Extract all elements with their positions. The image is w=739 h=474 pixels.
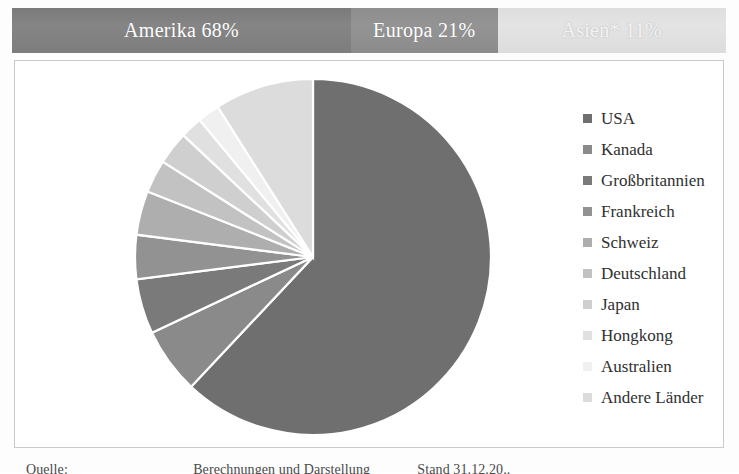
legend-item-label: Australien xyxy=(601,358,672,375)
source-fragment-2: Berechnungen und Darstellung xyxy=(193,462,370,474)
pie-chart xyxy=(133,77,493,437)
region-segment-europa-label: Europa 21% xyxy=(373,19,475,42)
legend-item[interactable]: USA xyxy=(583,103,739,134)
source-fragment-3: Stand 31.12.20.. xyxy=(417,462,510,474)
chart-legend: USAKanadaGroßbritannienFrankreichSchweiz… xyxy=(583,103,739,413)
legend-item-label: Kanada xyxy=(601,141,653,158)
legend-item[interactable]: Hongkong xyxy=(583,320,739,351)
legend-swatch-icon xyxy=(583,393,592,402)
pie-chart-svg xyxy=(133,77,493,437)
legend-swatch-icon xyxy=(583,238,592,247)
legend-item-label: Frankreich xyxy=(601,203,675,220)
region-segment-amerika: Amerika 68% xyxy=(12,8,351,53)
source-caption: Quelle: Berechnungen und Darstellung Sta… xyxy=(26,462,726,474)
legend-item[interactable]: Australien xyxy=(583,351,739,382)
legend-item-label: USA xyxy=(601,110,635,127)
region-summary-bar: Amerika 68% Europa 21% Asien* 11% xyxy=(12,8,726,53)
legend-item-label: Andere Länder xyxy=(601,389,703,406)
legend-item[interactable]: Frankreich xyxy=(583,196,739,227)
legend-item-label: Japan xyxy=(601,296,640,313)
region-segment-europa: Europa 21% xyxy=(351,8,497,53)
legend-swatch-icon xyxy=(583,176,592,185)
legend-item[interactable]: Kanada xyxy=(583,134,739,165)
legend-swatch-icon xyxy=(583,114,592,123)
pie-slice-group xyxy=(135,79,491,435)
legend-swatch-icon xyxy=(583,362,592,371)
legend-swatch-icon xyxy=(583,331,592,340)
legend-item-label: Hongkong xyxy=(601,327,673,344)
legend-swatch-icon xyxy=(583,269,592,278)
legend-item[interactable]: Deutschland xyxy=(583,258,739,289)
legend-swatch-icon xyxy=(583,300,592,309)
legend-item-label: Großbritannien xyxy=(601,172,705,189)
chart-frame: USAKanadaGroßbritannienFrankreichSchweiz… xyxy=(14,60,724,448)
source-fragment-1: Quelle: xyxy=(26,462,68,474)
region-segment-asien-label: Asien* 11% xyxy=(561,19,662,42)
legend-item-label: Deutschland xyxy=(601,265,686,282)
legend-item[interactable]: Großbritannien xyxy=(583,165,739,196)
legend-swatch-icon xyxy=(583,145,592,154)
region-segment-asien: Asien* 11% xyxy=(498,8,726,53)
legend-item[interactable]: Schweiz xyxy=(583,227,739,258)
legend-item-label: Schweiz xyxy=(601,234,659,251)
region-segment-amerika-label: Amerika 68% xyxy=(124,19,239,42)
legend-item[interactable]: Andere Länder xyxy=(583,382,739,413)
legend-item[interactable]: Japan xyxy=(583,289,739,320)
legend-swatch-icon xyxy=(583,207,592,216)
